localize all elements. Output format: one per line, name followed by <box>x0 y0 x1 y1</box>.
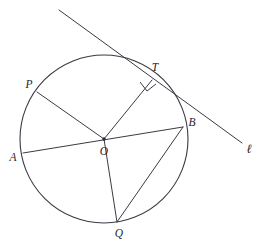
point-label-p: P <box>24 78 32 90</box>
segment-chord-b-q <box>117 127 183 222</box>
point-label-o: O <box>100 145 109 157</box>
tangent-line-l <box>59 10 242 143</box>
geometry-diagram-canvas: P A O T B Q ℓ <box>0 0 268 247</box>
point-label-b: B <box>188 116 195 128</box>
geometry-figure: P A O T B Q ℓ <box>0 0 268 247</box>
center-point-dot-o <box>102 137 105 140</box>
point-label-t: T <box>152 61 160 73</box>
tangent-line-label-l: ℓ <box>246 142 251 156</box>
point-label-q: Q <box>115 227 124 239</box>
point-label-a: A <box>8 151 17 163</box>
right-angle-marker-at-t <box>140 82 156 91</box>
segment-radius-p-o <box>37 92 104 139</box>
